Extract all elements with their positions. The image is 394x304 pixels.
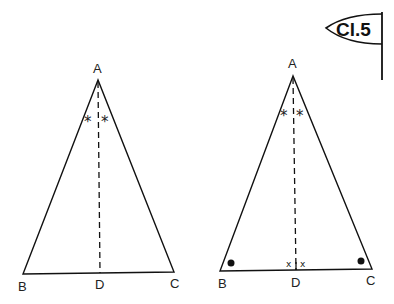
right-angle-mark-right: x <box>300 259 306 269</box>
vertex-a-label: A <box>93 61 102 76</box>
vertex-c-label: C <box>366 273 375 288</box>
base-angle-dot-c <box>358 258 365 265</box>
right-angle-mark-left: x <box>286 259 292 269</box>
angle-mark-right: * <box>101 113 109 131</box>
angle-mark-left: * <box>280 107 288 125</box>
vertex-d-label: D <box>291 275 300 290</box>
triangle-right: A B C D * * x x <box>218 56 375 291</box>
base-angle-dot-b <box>228 260 235 267</box>
angle-mark-right: * <box>296 107 304 125</box>
triangle-left: A B C D * * <box>18 61 179 294</box>
vertex-c-label: C <box>170 276 179 291</box>
vertex-b-label: B <box>18 279 27 294</box>
diagram-canvas: Cl.5 A B C D * * A B C D * * x x <box>0 0 394 304</box>
flag-label: Cl.5 <box>336 19 371 40</box>
vertex-b-label: B <box>218 276 227 291</box>
chapter-flag: Cl.5 <box>326 12 382 80</box>
angle-mark-left: * <box>84 113 92 131</box>
vertex-d-label: D <box>95 277 104 292</box>
vertex-a-label: A <box>288 56 297 71</box>
